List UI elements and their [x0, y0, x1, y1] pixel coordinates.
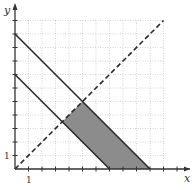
- y-axis-label: y: [3, 4, 11, 17]
- graph: y x 1 1: [0, 0, 195, 190]
- x-tick-label-1: 1: [26, 175, 32, 185]
- x-axis-label: x: [184, 172, 191, 185]
- y-tick-label-1: 1: [4, 151, 10, 161]
